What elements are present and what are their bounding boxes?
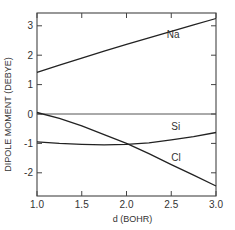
y-tick-label: 3 [27, 20, 33, 31]
series-label-na: Na [167, 29, 180, 40]
y-tick-label: 1 [27, 79, 33, 90]
x-tick-label: 1.0 [30, 199, 44, 210]
series-line-na [37, 19, 216, 73]
x-axis-title: d (BOHR) [113, 214, 153, 224]
dipole-moment-chart: -2-101231.01.52.02.53.0d (BOHR)DIPOLE MO… [0, 0, 235, 230]
y-tick-label: -2 [24, 167, 33, 178]
y-tick-label: 2 [27, 50, 33, 61]
y-axis-title: DIPOLE MOMENT (DEBYE) [3, 57, 13, 171]
series-label-si: Si [171, 121, 180, 132]
x-tick-label: 2.0 [120, 199, 134, 210]
x-tick-label: 2.5 [164, 199, 178, 210]
series-label-cl: Cl [171, 152, 180, 163]
plot-frame [37, 13, 216, 196]
series-line-cl [37, 113, 216, 187]
x-tick-label: 1.5 [75, 199, 89, 210]
y-tick-label: 0 [27, 109, 33, 120]
x-tick-label: 3.0 [209, 199, 223, 210]
y-tick-label: -1 [24, 138, 33, 149]
